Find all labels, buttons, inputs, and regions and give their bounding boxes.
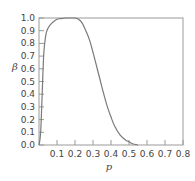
y-tick-label: 0.7 bbox=[21, 51, 35, 61]
chart: 0.00.10.20.30.40.50.60.70.80.91.0 0.10.2… bbox=[0, 0, 195, 181]
y-axis-title: β bbox=[11, 61, 18, 72]
plot-frame bbox=[39, 18, 183, 145]
y-tick-label: 0.2 bbox=[21, 115, 35, 125]
x-tick-label: 0.6 bbox=[140, 149, 155, 159]
y-tick-label: 0.4 bbox=[21, 89, 36, 99]
y-tick-label: 1.0 bbox=[21, 13, 36, 23]
y-tick-label: 0.5 bbox=[21, 77, 35, 87]
x-tick-label: 0.1 bbox=[50, 149, 64, 159]
y-tick-label: 0.9 bbox=[21, 26, 36, 36]
x-axis-ticks: 0.10.20.30.40.50.60.70.8 bbox=[50, 140, 191, 159]
x-tick-label: 0.3 bbox=[86, 149, 100, 159]
y-tick-label: 0.1 bbox=[21, 127, 35, 137]
x-axis-title: p bbox=[106, 161, 113, 172]
beta-curve bbox=[39, 18, 138, 145]
y-tick-label: 0.0 bbox=[21, 140, 36, 150]
y-tick-label: 0.8 bbox=[21, 38, 36, 48]
y-tick-label: 0.3 bbox=[21, 102, 35, 112]
x-tick-label: 0.5 bbox=[122, 149, 136, 159]
x-tick-label: 0.7 bbox=[158, 149, 172, 159]
x-tick-label: 0.8 bbox=[176, 149, 191, 159]
x-tick-label: 0.2 bbox=[68, 149, 82, 159]
x-tick-label: 0.4 bbox=[104, 149, 119, 159]
y-tick-label: 0.6 bbox=[21, 64, 36, 74]
